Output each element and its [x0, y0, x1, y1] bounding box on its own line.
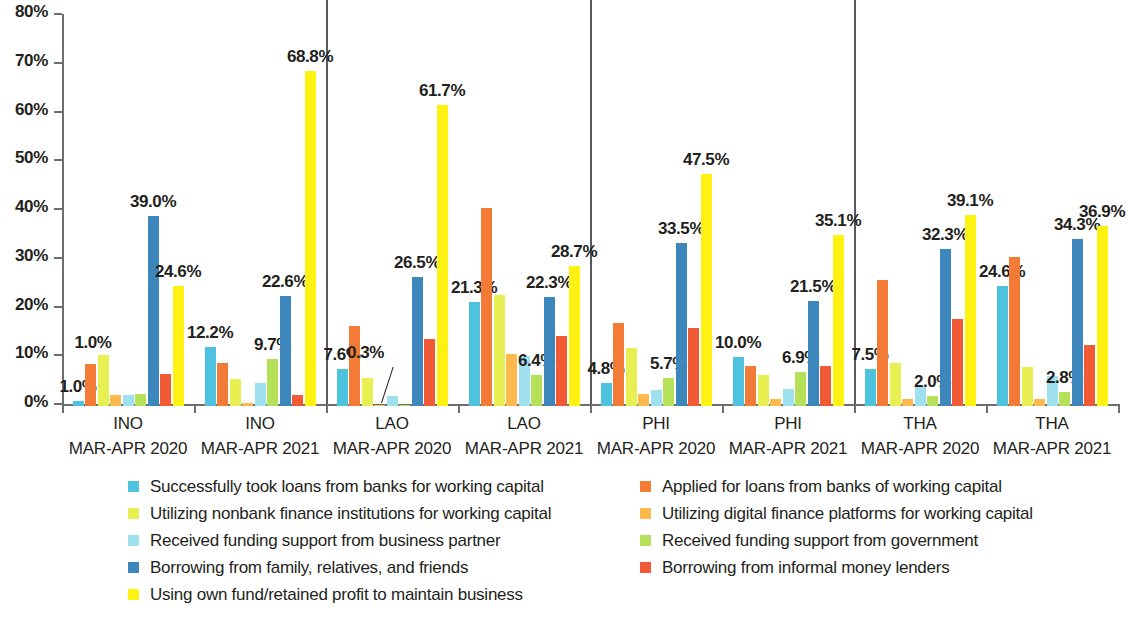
bar	[242, 403, 253, 406]
legend-item-label: Borrowing from family, relatives, and fr…	[150, 558, 468, 578]
bar	[437, 105, 448, 406]
legend-item-label: Utilizing nonbank finance institutions f…	[150, 504, 551, 524]
chart-root: 0%10%20%30%40%50%60%70%80% 1.0%1.0%39.0%…	[0, 0, 1128, 617]
bar-value-label: 39.0%	[130, 192, 176, 212]
bar	[952, 319, 963, 406]
y-axis-tick-mark	[54, 257, 62, 259]
bar-value-label: 22.3%	[526, 273, 572, 293]
bar	[1097, 226, 1108, 406]
bar	[783, 389, 794, 406]
y-axis-tick-mark	[54, 111, 62, 113]
bar	[531, 375, 542, 406]
legend-item[interactable]: Borrowing from family, relatives, and fr…	[128, 554, 551, 581]
bar	[902, 399, 913, 406]
bar	[217, 363, 228, 406]
bar-group: 1.0%1.0%39.0%24.6%	[62, 16, 194, 406]
bar	[1022, 367, 1033, 406]
y-axis-tick-label: 50%	[15, 148, 48, 168]
legend-item-label: Received funding support from business p…	[150, 531, 500, 551]
bar	[148, 216, 159, 406]
y-axis-tick-mark	[54, 354, 62, 356]
legend-color-swatch	[640, 508, 651, 519]
bar	[255, 383, 266, 406]
bar	[280, 296, 291, 406]
legend-item[interactable]: Borrowing from informal money lenders	[640, 554, 1033, 581]
bar	[85, 364, 96, 406]
bar-value-label: 10.0%	[715, 333, 761, 353]
legend-item-label: Received funding support from government	[662, 531, 978, 551]
y-axis-tick-label: 30%	[15, 246, 48, 266]
legend-item-label: Utilizing digital finance platforms for …	[662, 504, 1033, 524]
legend-color-swatch	[640, 481, 651, 492]
bar-value-label: 12.2%	[187, 323, 233, 343]
bar	[160, 374, 171, 406]
y-axis-tick-label: 40%	[15, 197, 48, 217]
bar	[1059, 392, 1070, 406]
bar	[292, 395, 303, 406]
bar	[601, 383, 612, 406]
bar	[374, 405, 385, 406]
legend-item[interactable]: Successfully took loans from banks for w…	[128, 473, 551, 500]
legend-column-left: Successfully took loans from banks for w…	[128, 473, 551, 608]
x-axis-country-label: INO	[62, 411, 194, 436]
x-axis-group-label: PHIMAR-APR 2020	[590, 411, 722, 461]
bar	[890, 363, 901, 406]
bar-value-label: 22.6%	[262, 272, 308, 292]
bar	[424, 339, 435, 406]
bar	[556, 336, 567, 406]
bar	[733, 357, 744, 406]
bar-value-label: 26.5%	[394, 253, 440, 273]
bar	[135, 394, 146, 406]
bar	[927, 396, 938, 406]
bar	[877, 280, 888, 406]
bar-group: 4.8%5.7%33.5%47.5%	[590, 16, 722, 406]
bar	[481, 208, 492, 406]
x-axis-period-label: MAR-APR 2020	[62, 436, 194, 461]
legend-item[interactable]: Received funding support from business p…	[128, 527, 551, 554]
legend-color-swatch	[640, 535, 651, 546]
bar-value-label: 21.5%	[790, 277, 836, 297]
bar	[758, 375, 769, 406]
legend-item-label: Successfully took loans from banks for w…	[150, 477, 544, 497]
bar	[387, 396, 398, 406]
bar	[1009, 257, 1020, 406]
legend-color-swatch	[640, 562, 651, 573]
bar	[651, 390, 662, 406]
bar	[469, 302, 480, 406]
x-axis-period-label: MAR-APR 2021	[458, 436, 590, 461]
x-axis-group-label: INOMAR-APR 2020	[62, 411, 194, 461]
bar-value-label: 32.3%	[922, 225, 968, 245]
y-axis-tick-label: 10%	[15, 343, 48, 363]
bar	[337, 369, 348, 406]
y-axis-tick-mark	[54, 403, 62, 405]
bar	[230, 379, 241, 406]
bar	[123, 395, 134, 406]
x-axis-group-label: LAOMAR-APR 2021	[458, 411, 590, 461]
y-axis-tick-label: 60%	[15, 100, 48, 120]
bar	[663, 378, 674, 406]
y-axis-tick-label: 70%	[15, 51, 48, 71]
bar	[494, 295, 505, 406]
legend-item[interactable]: Utilizing nonbank finance institutions f…	[128, 500, 551, 527]
x-axis-country-label: PHI	[590, 411, 722, 436]
bar	[997, 286, 1008, 406]
legend-item[interactable]: Applied for loans from banks of working …	[640, 473, 1033, 500]
bar	[676, 243, 687, 406]
x-axis-country-label: PHI	[722, 411, 854, 436]
bar	[1084, 345, 1095, 406]
bar-value-label: 33.5%	[658, 219, 704, 239]
bar	[638, 394, 649, 406]
x-axis-period-label: MAR-APR 2020	[590, 436, 722, 461]
x-axis-group-label: PHIMAR-APR 2021	[722, 411, 854, 461]
bar	[73, 401, 84, 406]
legend-item[interactable]: Received funding support from government	[640, 527, 1033, 554]
bar	[965, 215, 976, 406]
bar	[110, 395, 121, 406]
bar	[820, 366, 831, 406]
bar	[412, 277, 423, 406]
legend-color-swatch	[128, 481, 139, 492]
bar	[362, 378, 373, 406]
legend-item[interactable]: Utilizing digital finance platforms for …	[640, 500, 1033, 527]
bar	[745, 366, 756, 406]
legend-item[interactable]: Using own fund/retained profit to mainta…	[128, 581, 551, 608]
